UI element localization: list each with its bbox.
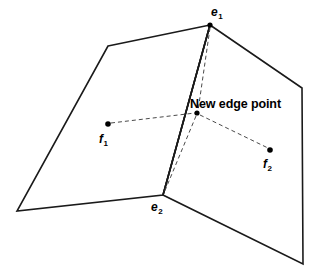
- point-f2: [267, 147, 273, 153]
- label-e1: e1: [211, 6, 222, 18]
- left-face-polygon: [17, 25, 210, 211]
- point-e1: [207, 22, 212, 27]
- diagram-canvas: [0, 0, 319, 275]
- point-f1: [105, 121, 111, 127]
- dashed-new-edge-point-to-e2: [164, 116, 196, 193]
- label-f2-base: f: [263, 157, 267, 171]
- label-f1-sub: 1: [104, 139, 108, 148]
- label-f1: f1: [99, 133, 107, 145]
- dashed-new-edge-point-to-f2: [200, 115, 268, 148]
- label-e2-base: e: [151, 200, 158, 214]
- label-e1-sub: 1: [218, 12, 222, 21]
- label-e1-base: e: [211, 5, 218, 19]
- label-e2: e2: [151, 201, 162, 213]
- label-f2-sub: 2: [268, 164, 272, 173]
- point-new-edge: [194, 110, 199, 115]
- label-f2: f2: [263, 158, 271, 170]
- label-f1-base: f: [99, 132, 103, 146]
- label-new-edge-point: New edge point: [190, 98, 281, 111]
- dashed-f1-to-new-edge-point: [111, 113, 195, 123]
- label-e2-sub: 2: [158, 207, 162, 216]
- edge-point-diagram: e1 e2 f1 f2 New edge point: [0, 0, 319, 275]
